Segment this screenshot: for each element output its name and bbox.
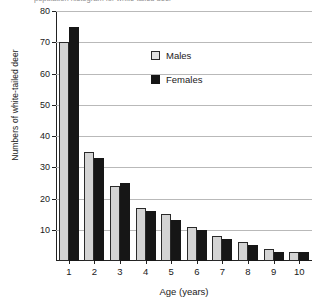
bar-group — [235, 242, 261, 261]
bar-males-age-3[interactable] — [110, 186, 120, 261]
y-tick-label: 20 — [40, 194, 50, 204]
bar-females-age-5[interactable] — [171, 220, 181, 261]
legend-item-males: Males — [151, 50, 202, 61]
y-tick-label: 50 — [40, 100, 50, 110]
bar-males-age-2[interactable] — [84, 152, 94, 261]
legend-swatch-males — [151, 51, 160, 60]
legend-item-females: Females — [151, 74, 202, 85]
bar-females-age-7[interactable] — [222, 239, 232, 261]
x-tick-label: 5 — [169, 266, 174, 277]
y-tick-label: 10 — [40, 225, 50, 235]
bar-group — [261, 249, 287, 262]
bar-females-age-3[interactable] — [120, 183, 130, 261]
bar-group — [56, 27, 82, 261]
gridline — [56, 11, 312, 12]
bar-group — [210, 236, 236, 261]
bar-males-age-10[interactable] — [289, 252, 299, 261]
bar-males-age-8[interactable] — [238, 242, 248, 261]
chart-legend: Males Females — [151, 50, 202, 98]
bar-females-age-10[interactable] — [299, 252, 309, 261]
gridline — [56, 105, 312, 106]
bar-group — [133, 208, 159, 261]
bar-group — [286, 252, 312, 261]
bar-females-age-9[interactable] — [274, 252, 284, 261]
x-tick-mark — [248, 261, 249, 264]
bar-males-age-6[interactable] — [187, 227, 197, 261]
chart-root: population histogram for white-tailed de… — [0, 0, 323, 304]
x-tick-mark — [222, 261, 223, 264]
bar-group — [158, 214, 184, 261]
bar-females-age-8[interactable] — [248, 245, 258, 261]
x-tick-label: 8 — [245, 266, 250, 277]
y-axis-title: Numbers of white-tailed deer — [10, 30, 20, 180]
bar-females-age-6[interactable] — [197, 230, 207, 261]
x-tick-label: 3 — [117, 266, 122, 277]
x-tick-label: 7 — [220, 266, 225, 277]
legend-label-females: Females — [166, 74, 202, 85]
bar-males-age-7[interactable] — [212, 236, 222, 261]
gridline — [56, 136, 312, 137]
bar-group — [107, 183, 133, 261]
x-tick-label: 9 — [271, 266, 276, 277]
x-tick-mark — [274, 261, 275, 264]
bar-group — [82, 152, 108, 261]
x-tick-label: 6 — [194, 266, 199, 277]
x-tick-label: 10 — [294, 266, 305, 277]
bar-males-age-9[interactable] — [264, 249, 274, 262]
y-tick-label: 60 — [40, 69, 50, 79]
y-tick-mark — [52, 11, 56, 12]
y-tick-label: 40 — [40, 131, 50, 141]
bar-females-age-4[interactable] — [146, 211, 156, 261]
x-axis-title: Age (years) — [56, 286, 312, 297]
legend-label-males: Males — [166, 50, 191, 61]
x-tick-mark — [120, 261, 121, 264]
x-tick-mark — [146, 261, 147, 264]
x-tick-mark — [171, 261, 172, 264]
y-tick-label: 30 — [40, 162, 50, 172]
x-tick-mark — [94, 261, 95, 264]
bar-males-age-1[interactable] — [59, 42, 69, 261]
legend-swatch-females — [151, 75, 160, 84]
bar-females-age-1[interactable] — [69, 27, 79, 261]
x-tick-mark — [69, 261, 70, 264]
chart-title: population histogram for white-tailed de… — [34, 0, 274, 3]
bar-group — [184, 227, 210, 261]
y-tick-label: 70 — [40, 37, 50, 47]
bar-males-age-4[interactable] — [136, 208, 146, 261]
y-tick-label: 80 — [40, 6, 50, 16]
x-tick-label: 4 — [143, 266, 148, 277]
bar-females-age-2[interactable] — [94, 158, 104, 261]
x-tick-mark — [299, 261, 300, 264]
bar-males-age-5[interactable] — [161, 214, 171, 261]
x-tick-label: 1 — [66, 266, 71, 277]
plot-area: 102030405060708012345678910 — [56, 11, 312, 261]
x-tick-label: 2 — [92, 266, 97, 277]
x-tick-mark — [197, 261, 198, 264]
gridline — [56, 42, 312, 43]
